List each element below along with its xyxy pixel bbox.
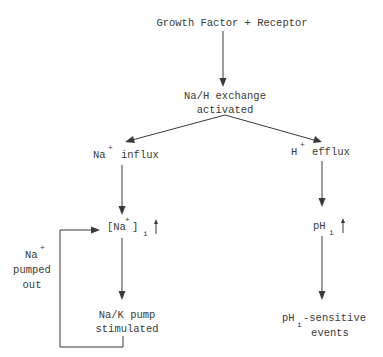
- node-ph-sensitive-events: pH i -sensitive events: [282, 312, 366, 339]
- title-growth-factor-receptor: Growth Factor + Receptor: [156, 17, 307, 29]
- node-na-h-exchange: Na/H exchange activated: [184, 90, 266, 116]
- node-ph-intracellular: pH i: [313, 218, 345, 237]
- node-na-k-pump: Na/K pump stimulated: [95, 309, 158, 335]
- node-h-efflux: H + efflux: [291, 140, 350, 158]
- feedback-charge: +: [40, 243, 45, 252]
- feedback-ion: Na: [25, 249, 38, 261]
- arrow-na-conc-to-pump: [119, 238, 126, 300]
- node-na-concentration: [Na + ] i: [107, 215, 158, 238]
- feedback-line2: pumped: [13, 264, 51, 276]
- ph-main: pH: [313, 220, 326, 232]
- pump-line1: Na/K pump: [99, 309, 156, 321]
- na-conc-close: ]: [132, 221, 138, 233]
- h-efflux-text: efflux: [312, 146, 350, 158]
- signaling-flow-diagram: Growth Factor + Receptor Na/H exchange a…: [0, 0, 383, 357]
- na-influx-text: influx: [121, 149, 159, 161]
- ph-events-sub: i: [297, 320, 302, 329]
- ph-events-main: pH: [282, 312, 295, 324]
- h-efflux-ion: H: [291, 146, 297, 158]
- node-na-influx: Na + influx: [93, 143, 159, 161]
- arrow-exchange-to-h-efflux: [225, 115, 322, 143]
- arrow-exchange-to-na-influx: [125, 115, 225, 143]
- arrow-title-to-exchange: [220, 31, 227, 87]
- exchange-line1: Na/H exchange: [184, 90, 266, 102]
- node-na-pumped-out: Na + pumped out: [13, 243, 51, 291]
- arrow-na-influx-to-na-conc: [119, 165, 126, 215]
- arrow-h-efflux-to-ph: [319, 161, 326, 207]
- na-influx-charge: +: [108, 143, 113, 152]
- na-conc-sub: i: [143, 229, 148, 238]
- arrow-ph-to-events: [319, 236, 326, 300]
- pump-line2: stimulated: [95, 323, 158, 335]
- na-conc-open: [Na: [107, 221, 126, 233]
- na-conc-charge: +: [125, 215, 130, 224]
- exchange-line2: activated: [197, 104, 254, 116]
- ph-events-rest: -sensitive: [303, 312, 366, 324]
- ph-events-line2: events: [311, 327, 349, 339]
- increase-arrow-icon: [154, 219, 158, 234]
- increase-arrow-icon: [341, 218, 345, 233]
- ph-sub: i: [329, 228, 334, 237]
- feedback-line3: out: [23, 279, 42, 291]
- h-efflux-charge: +: [300, 140, 305, 149]
- na-influx-ion: Na: [93, 149, 106, 161]
